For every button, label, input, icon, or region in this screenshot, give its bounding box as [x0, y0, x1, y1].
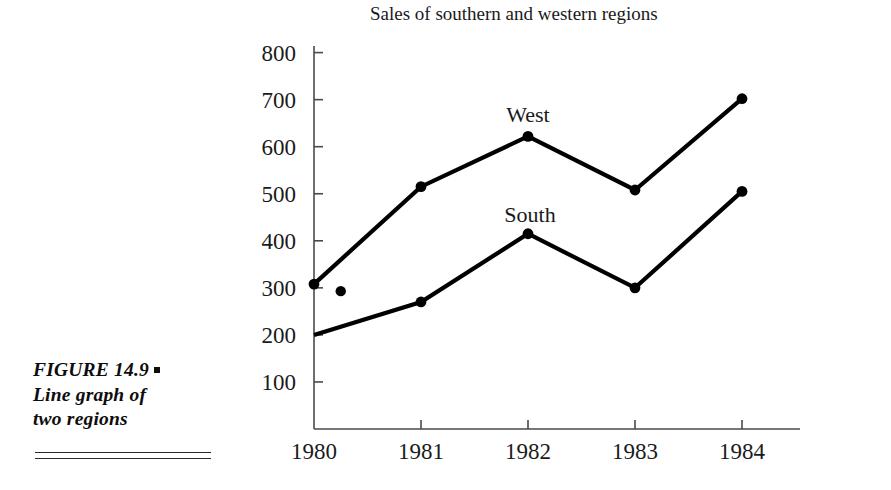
y-tick-label: 500 [262, 182, 297, 207]
y-tick-label: 200 [262, 323, 297, 348]
x-axis-tick-labels: 19801981198219831984 [291, 439, 766, 464]
x-tick-label: 1983 [612, 439, 658, 464]
annotation-dots [336, 286, 346, 296]
stray-dot-marker [336, 286, 346, 296]
series-label-west: West [506, 102, 549, 127]
y-tick-label: 600 [262, 135, 297, 160]
data-point-marker [523, 228, 534, 239]
y-axis-tick-labels: 100200300400500600700800 [262, 41, 297, 395]
y-tick-label: 300 [262, 276, 297, 301]
x-tick-label: 1980 [291, 439, 337, 464]
data-point-marker [737, 93, 748, 104]
line-chart-figure: Sales of southern and western regions 10… [0, 0, 891, 490]
series-label-south: South [504, 202, 555, 227]
y-tick-label: 400 [262, 229, 297, 254]
data-point-marker [416, 181, 427, 192]
data-point-marker [630, 282, 641, 293]
x-tick-label: 1984 [719, 439, 766, 464]
x-axis-ticks [421, 420, 742, 429]
y-tick-label: 800 [262, 41, 297, 66]
data-point-marker [630, 185, 641, 196]
data-point-marker [523, 131, 534, 142]
chart-canvas: 100200300400500600700800 198019811982198… [0, 0, 891, 490]
y-tick-label: 100 [262, 370, 297, 395]
x-tick-label: 1982 [505, 439, 551, 464]
y-tick-label: 700 [262, 88, 297, 113]
data-point-marker [737, 186, 748, 197]
data-point-marker [416, 297, 427, 308]
data-point-marker [309, 279, 320, 290]
series-inline-labels: WestSouth [504, 102, 555, 227]
x-tick-label: 1981 [398, 439, 444, 464]
